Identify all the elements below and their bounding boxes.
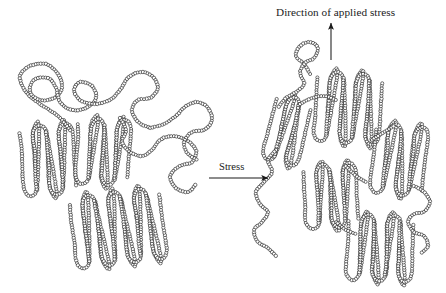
stress-arrow-label: Stress (219, 161, 244, 172)
applied-stress-title: Direction of applied stress (276, 6, 395, 18)
polymer-diagram-canvas (0, 0, 446, 293)
polymer-deformation-figure: Direction of applied stress Stress (0, 0, 446, 293)
